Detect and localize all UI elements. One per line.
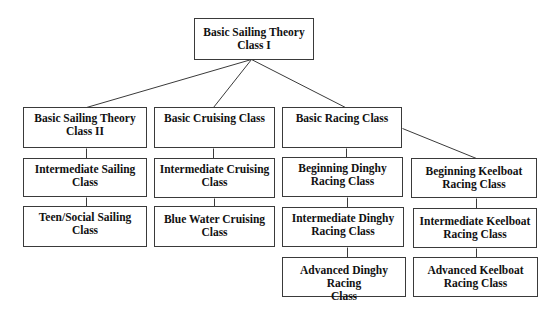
node-advanced-keelboat-racing-class: Advanced Keelboat Racing Class [413,257,538,297]
connector-bst1-bst2 [87,60,252,108]
node-label-line: Intermediate Keelboat [414,215,536,228]
node-label-line: Basic Cruising Class [155,112,274,125]
node-label-line: Intermediate Dinghy [283,212,403,225]
node-label-line: Advanced Keelboat [414,264,537,277]
node-label-line: Racing Class [412,178,536,191]
node-label-line: Class [283,290,405,303]
node-blue-water-cruising-class: Blue Water Cruising Class [154,206,275,247]
node-label-line: Beginning Dinghy [283,162,402,175]
node-label-line: Racing Class [414,277,537,290]
node-basic-racing-class: Basic Racing Class [282,107,402,148]
node-label-line: Class [155,226,274,239]
node-label-line: Basic Sailing Theory [195,26,313,39]
node-intermediate-cruising-class: Intermediate Cruising Class [154,158,275,198]
node-label-line: Class II [24,125,146,138]
sailing-class-hierarchy-diagram: Basic Sailing Theory Class I Basic Saili… [0,0,556,317]
node-label-line: Blue Water Cruising [155,213,274,226]
node-label-line: Teen/Social Sailing [24,211,146,224]
node-label-line: Basic Sailing Theory [24,112,146,125]
node-intermediate-keelboat-racing-class: Intermediate Keelboat Racing Class [413,208,537,248]
node-label-line: Class I [195,39,313,52]
node-basic-sailing-theory-class-2: Basic Sailing Theory Class II [23,107,147,148]
node-label-line: Racing Class [283,225,403,238]
node-beginning-dinghy-racing-class: Beginning Dinghy Racing Class [282,157,403,197]
node-label-line: Intermediate Sailing [24,163,146,176]
node-label-line: Intermediate Cruising [155,163,274,176]
node-intermediate-sailing-class: Intermediate Sailing Class [23,158,147,197]
connector-bst1-bcc [214,60,252,108]
node-advanced-dinghy-racing-class: Advanced Dinghy Racing Class [282,257,406,297]
node-label-line: Class [155,176,274,189]
node-label-line: Class [24,224,146,237]
node-basic-sailing-theory-class-1: Basic Sailing Theory Class I [194,18,314,60]
node-label-line: Advanced Dinghy Racing [283,264,405,290]
node-label-line: Class [24,176,146,189]
node-basic-cruising-class: Basic Cruising Class [154,107,275,148]
node-teen-social-sailing-class: Teen/Social Sailing Class [23,206,147,247]
node-beginning-keelboat-racing-class: Beginning Keelboat Racing Class [411,158,537,198]
node-intermediate-dinghy-racing-class: Intermediate Dinghy Racing Class [282,207,404,247]
connector-brc-bkrc [403,129,477,159]
node-label-line: Beginning Keelboat [412,165,536,178]
connector-bst1-brc [252,60,346,108]
node-label-line: Racing Class [283,175,402,188]
node-label-line: Basic Racing Class [283,112,401,125]
node-label-line: Racing Class [414,228,536,241]
